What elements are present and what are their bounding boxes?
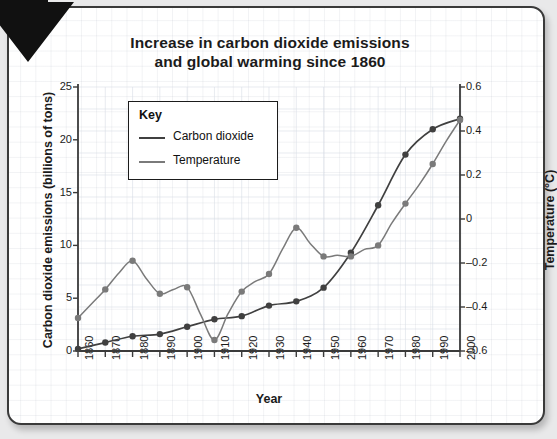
data-point (239, 288, 245, 294)
data-point (239, 313, 245, 319)
data-point (266, 271, 272, 277)
data-point (102, 286, 108, 292)
data-point (293, 225, 299, 231)
legend-label-temperature: Temperature (173, 153, 240, 167)
data-point (157, 291, 163, 297)
data-point (402, 200, 408, 206)
data-point (211, 316, 217, 322)
data-point (375, 202, 381, 208)
data-point (184, 324, 190, 330)
data-point (430, 161, 436, 167)
legend-swatch-carbon-dioxide (139, 137, 165, 139)
data-point (75, 346, 81, 352)
data-point (75, 315, 81, 321)
data-point (320, 284, 326, 290)
data-point (402, 151, 408, 157)
data-point (348, 253, 354, 259)
data-point (375, 242, 381, 248)
data-point (457, 117, 463, 123)
data-point (129, 258, 135, 264)
legend-swatch-temperature (139, 161, 165, 163)
data-point (129, 333, 135, 339)
data-point (293, 298, 299, 304)
legend-label-carbon-dioxide: Carbon dioxide (173, 129, 254, 143)
data-point (102, 339, 108, 345)
legend-title: Key (139, 108, 162, 122)
data-point (211, 337, 217, 343)
data-point (184, 284, 190, 290)
data-point (266, 302, 272, 308)
legend: Key Carbon dioxide Temperature (128, 101, 278, 180)
data-point (157, 331, 163, 337)
data-point (430, 126, 436, 132)
data-point (320, 253, 326, 259)
